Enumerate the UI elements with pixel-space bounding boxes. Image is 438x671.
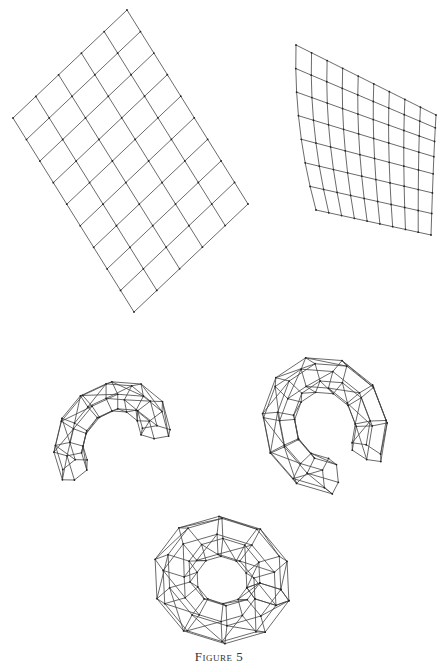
- figure-caption: Figure 5: [0, 649, 438, 665]
- partial-torus-right-panel: [262, 357, 388, 495]
- curved-sheet-panel: [295, 44, 437, 236]
- flat-grid-panel: [12, 9, 249, 313]
- partial-torus-left-panel: [53, 381, 171, 481]
- closed-torus-panel: [154, 515, 290, 644]
- figure-canvas: [0, 0, 438, 671]
